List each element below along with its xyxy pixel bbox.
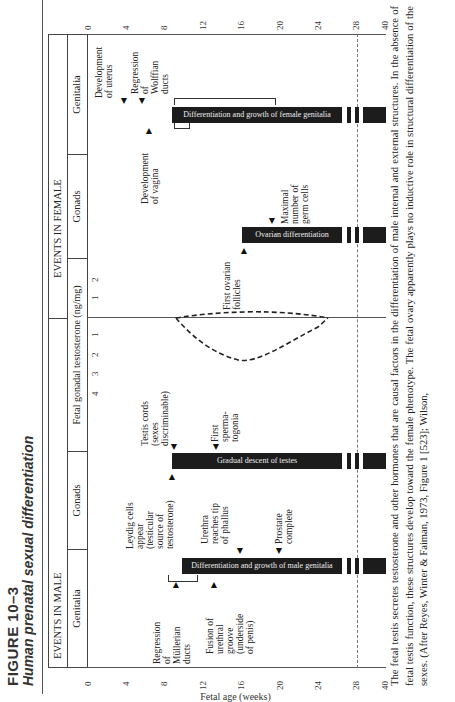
- event-testis-cords: Testis cords (sexes discriminable): [140, 391, 170, 446]
- arrow-icon: ◀: [212, 444, 220, 450]
- arrow-icon: ▶: [240, 248, 248, 254]
- bar-break: [347, 453, 351, 469]
- event-urethra: Urethra reaches tip of phallus: [200, 503, 230, 544]
- tick-24-right: 24: [313, 21, 323, 30]
- title-rule: [42, 0, 43, 694]
- event-spermatogonia: First sperma- togonia: [210, 411, 240, 442]
- tick-20-right: 20: [275, 21, 285, 30]
- tick-0-right: 0: [83, 26, 93, 31]
- bar-break: [355, 558, 359, 574]
- event-vagina: Development of vagina: [140, 153, 160, 204]
- arrow-icon: ▶: [172, 582, 180, 588]
- bar-tail: [363, 227, 386, 243]
- col-female-genitalia: Genitalia: [67, 34, 88, 155]
- col-male-gonads: Gonads: [67, 451, 88, 550]
- col-male-genitalia: Genitalia: [67, 549, 88, 668]
- bar-tail: [363, 453, 386, 469]
- bar-male-genitalia: Differentiation and growth of male genit…: [182, 558, 342, 574]
- female-testosterone-curve: [176, 312, 328, 318]
- bar-break: [355, 453, 359, 469]
- female-age-axis: [88, 34, 386, 35]
- bar-break: [355, 107, 359, 123]
- arrow-icon: ◀: [236, 548, 244, 554]
- bar-female-gonads: Ovarian differentiation: [242, 227, 342, 243]
- arrow-icon: ◀: [170, 444, 178, 450]
- event-mullerian: Regression of Müllerian ducts: [152, 622, 192, 664]
- bar-male-gonads: Gradual descent of testes: [172, 453, 342, 469]
- event-uterus: Development of uterus: [94, 47, 114, 98]
- tick-28-right: 28: [351, 21, 361, 30]
- tick-8-right: 8: [159, 26, 169, 31]
- event-wolffian: Regression of Wolffian ducts: [130, 52, 170, 94]
- event-leydig: Leydig cells appear (testicular source o…: [125, 500, 175, 549]
- tick-8: 8: [159, 682, 169, 687]
- event-prostate: Prostate complete: [274, 509, 294, 544]
- bar-tail: [363, 107, 386, 123]
- header-events-male: EVENTS IN MALE: [48, 318, 68, 668]
- figure-caption: The fetal testis secretes testosterone a…: [388, 6, 432, 686]
- tick-12: 12: [198, 681, 208, 690]
- event-germ-cells: Maximal number of germ cells: [280, 185, 310, 224]
- arrow-icon: ◀: [268, 218, 276, 224]
- col-female-gonads: Gonads: [67, 154, 88, 259]
- male-age-axis: [88, 667, 386, 668]
- figure-title: Human prenatal sexual differentiation: [20, 436, 36, 686]
- bracket-mullerian: [168, 575, 198, 582]
- bar-female-genitalia: Differentiation and growth of female gen…: [172, 107, 342, 123]
- arrow-icon: ▶: [145, 128, 153, 134]
- tick-28: 28: [351, 681, 361, 690]
- arrow-icon: ◀: [138, 98, 146, 104]
- bracket-uterus: [174, 123, 190, 129]
- bar-break: [355, 227, 359, 243]
- tick-16: 16: [236, 681, 246, 690]
- bar-break: [347, 107, 351, 123]
- tick-4-right: 4: [121, 26, 131, 31]
- tick-12-right: 12: [198, 21, 208, 30]
- tick-20: 20: [275, 681, 285, 690]
- header-events-female: EVENTS IN FEMALE: [48, 34, 68, 319]
- arrow-icon: ▶: [210, 582, 218, 588]
- arrow-icon: ▶: [168, 474, 176, 480]
- tick-16-right: 16: [236, 21, 246, 30]
- event-fusion: Fusion of urethral groove (underside of …: [205, 614, 255, 654]
- bracket-vagina: [174, 98, 276, 105]
- tick-24: 24: [313, 681, 323, 690]
- bar-break: [347, 227, 351, 243]
- male-testosterone-curve: [176, 318, 328, 360]
- tick-4: 4: [121, 682, 131, 687]
- arrow-icon: ◀: [275, 548, 283, 554]
- figure-number: FIGURE 10–3: [4, 586, 21, 686]
- bar-break: [347, 558, 351, 574]
- event-ovarian-follicles: First ovarian follicles: [222, 262, 242, 310]
- col-testosterone: Fetal gonadal testosterone (ng/mg): [67, 258, 88, 452]
- arrow-icon: ◀: [120, 98, 128, 104]
- age-axis-label: Fetal age (weeks): [200, 691, 271, 702]
- bar-tail: [363, 558, 386, 574]
- tick-0: 0: [83, 682, 93, 687]
